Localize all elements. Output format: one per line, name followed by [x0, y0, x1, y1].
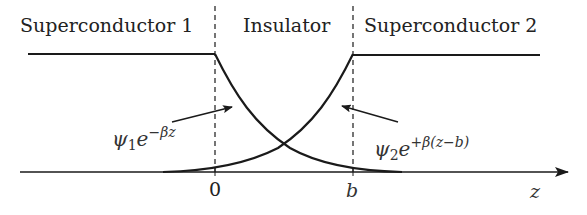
- tick-label-0: 0: [209, 178, 221, 200]
- label-psi2-expression: ψ2e+β(z−b): [374, 134, 469, 163]
- axis-label-z: z: [529, 180, 541, 202]
- psi1-exp-base: e: [137, 127, 149, 151]
- pointer-arrow-psi1: [172, 107, 232, 122]
- label-psi1-expression: ψ1e−βz: [112, 124, 176, 153]
- psi1-symbol: ψ: [112, 127, 128, 151]
- psi2-exp-base: e: [399, 137, 411, 161]
- psi1-exponent: −βz: [148, 124, 176, 140]
- josephson-junction-diagram: Superconductor 1 Insulator Superconducto…: [0, 0, 587, 215]
- region-label-superconductor-1: Superconductor 1: [20, 14, 193, 36]
- psi2-subscript: 2: [390, 147, 399, 163]
- psi2-exponent: +β(z−b): [410, 134, 469, 150]
- decaying-wavefunction-curve-2: [163, 54, 353, 172]
- psi2-symbol: ψ: [374, 137, 390, 161]
- region-label-insulator: Insulator: [243, 14, 331, 36]
- psi1-subscript: 1: [128, 137, 137, 153]
- region-label-superconductor-2: Superconductor 2: [364, 14, 537, 36]
- tick-label-b: b: [346, 179, 358, 201]
- pointer-arrow-psi2: [342, 106, 398, 122]
